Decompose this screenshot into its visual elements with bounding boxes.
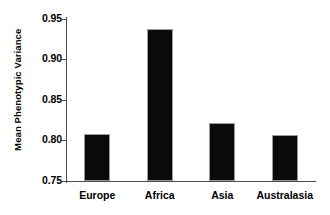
bar-europe [84, 134, 110, 181]
y-tick-label-3: 0.80 [6, 134, 62, 145]
y-tick-group-4: 0.75 [0, 175, 62, 187]
bar-australasia [272, 135, 298, 181]
bar-chart: Mean Phenotypic Variance 0.95 0.90 0.85 … [0, 0, 330, 215]
y-tick-group-3: 0.80 [0, 134, 62, 146]
y-tick-label-1: 0.90 [6, 53, 62, 64]
y-tick-label-2: 0.85 [6, 94, 62, 105]
x-label-australasia: Australasia [254, 190, 317, 201]
x-label-africa: Africa [129, 190, 192, 201]
y-tick-group-0: 0.95 [0, 13, 62, 25]
y-tick-label-0: 0.95 [6, 13, 62, 24]
x-label-asia: Asia [191, 190, 254, 201]
y-tick-group-1: 0.90 [0, 53, 62, 65]
bar-asia [209, 123, 235, 181]
bar-africa [147, 29, 173, 181]
y-tick-group-2: 0.85 [0, 94, 62, 106]
y-axis-line [66, 17, 67, 183]
x-axis-line [66, 181, 316, 182]
y-tick-label-4: 0.75 [6, 175, 62, 186]
x-label-europe: Europe [66, 190, 129, 201]
